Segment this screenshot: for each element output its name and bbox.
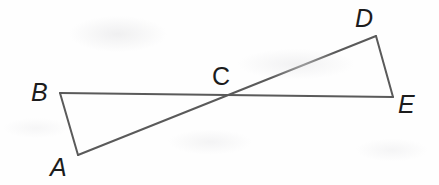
- segment-DE: [376, 36, 393, 97]
- geometry-diagram: B A C D E: [0, 0, 439, 185]
- vertex-label-d: D: [355, 6, 373, 31]
- segments-group: [60, 36, 393, 155]
- vertex-label-c: C: [212, 64, 230, 89]
- vertex-label-b: B: [31, 80, 48, 105]
- segment-BA: [60, 93, 78, 155]
- vertex-label-a: A: [50, 155, 67, 180]
- vertex-label-e: E: [398, 92, 415, 117]
